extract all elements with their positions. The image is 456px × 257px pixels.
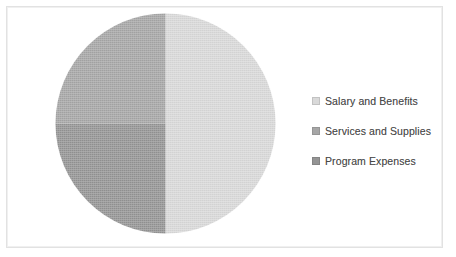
pie-slice-services-and-supplies bbox=[56, 14, 166, 124]
pie-graphic bbox=[55, 13, 276, 234]
square-swatch-icon bbox=[312, 97, 320, 105]
pie-chart-area: Salary and Benefits Services and Supplie… bbox=[0, 0, 456, 257]
square-swatch-icon bbox=[312, 127, 320, 135]
square-swatch-icon bbox=[312, 157, 320, 165]
chart-legend: Salary and Benefits Services and Supplie… bbox=[312, 90, 452, 180]
chart-screenshot: Salary and Benefits Services and Supplie… bbox=[0, 0, 456, 257]
legend-item-services-and-supplies: Services and Supplies bbox=[312, 120, 452, 141]
pie-svg bbox=[55, 13, 276, 234]
legend-label: Salary and Benefits bbox=[325, 95, 418, 107]
pie-slice-salary-and-benefits bbox=[166, 14, 276, 234]
legend-item-salary-and-benefits: Salary and Benefits bbox=[312, 90, 452, 111]
legend-label: Program Expenses bbox=[325, 155, 416, 167]
legend-label: Services and Supplies bbox=[325, 125, 431, 137]
legend-item-program-expenses: Program Expenses bbox=[312, 150, 452, 171]
pie-slice-program-expenses bbox=[56, 124, 166, 234]
